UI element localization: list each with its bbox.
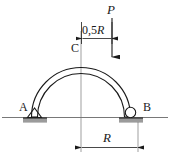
support-label-b: B bbox=[143, 101, 151, 113]
crown-point-label-c: C bbox=[71, 42, 79, 54]
offset-dimension-label: 0,5R bbox=[82, 24, 104, 36]
offset-dimension-value: 0,5 bbox=[82, 23, 97, 37]
load-label-p: P bbox=[107, 3, 115, 16]
support-label-a: A bbox=[19, 101, 28, 113]
support-roller-b bbox=[119, 107, 143, 122]
offset-dimension-symbol: R bbox=[97, 23, 104, 37]
radius-dimension-label: R bbox=[103, 131, 111, 144]
arch-diagram: P 0,5R C A B R bbox=[0, 0, 170, 161]
